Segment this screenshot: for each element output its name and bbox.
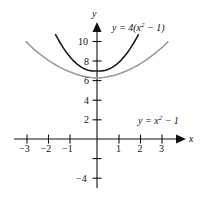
- y-axis: [93, 22, 102, 188]
- y-axis-arrow-icon: [93, 22, 102, 32]
- x-tick-label--1: −1: [62, 144, 73, 154]
- x-tick-label-1: 1: [116, 144, 121, 154]
- dark-curve-label-suffix: − 1): [144, 22, 164, 33]
- y-tick-label-4: 4: [84, 96, 89, 106]
- dark-curve-label: y = 4(x2 − 1): [112, 22, 165, 33]
- x-tick-label--2: −2: [41, 144, 52, 154]
- dark-curve-label-prefix: y = 4(x: [112, 22, 141, 33]
- x-axis-arrow-icon: [176, 135, 186, 144]
- y-tick-label--4: −4: [76, 174, 87, 184]
- y-tick-label-10: 10: [78, 37, 88, 47]
- plot-canvas: [0, 0, 201, 199]
- gray-curve-label: y = x2 − 1: [138, 115, 179, 126]
- gray-curve-label-prefix: y = x: [138, 115, 159, 126]
- y-tick-label-8: 8: [84, 57, 89, 67]
- y-tick-label-6: 6: [84, 76, 89, 86]
- graph-figure: −3 −2 −1 1 2 3 10 8 6 4 2 −4 y x y = 4(x…: [0, 0, 201, 199]
- y-tick-label-2: 2: [84, 115, 89, 125]
- x-tick-label-3: 3: [159, 144, 164, 154]
- x-axis-name: x: [189, 134, 193, 144]
- x-tick-label--3: −3: [19, 144, 30, 154]
- y-axis-name: y: [92, 9, 96, 19]
- gray-curve-label-suffix: − 1: [162, 115, 179, 126]
- x-tick-label-2: 2: [138, 144, 143, 154]
